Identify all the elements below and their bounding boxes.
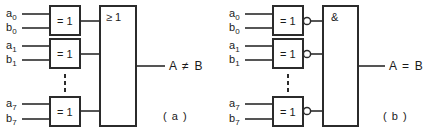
input-label-a1: a1 (6, 39, 17, 54)
input-label-b1: b1 (6, 53, 17, 68)
panel-caption-b: ( b ) (383, 110, 408, 122)
xor-gate-7-symbol: = 1 (280, 106, 296, 118)
xor-gate-7-symbol: = 1 (57, 106, 73, 118)
input-label-b0: b0 (229, 21, 240, 36)
panel-caption-a: ( a ) (163, 110, 188, 122)
input-label-a0: a0 (6, 7, 17, 22)
and-gate-symbol: & (331, 11, 339, 23)
input-label-b7: b7 (229, 112, 240, 127)
input-label-b7: b7 (6, 112, 17, 127)
input-label-a0: a0 (229, 7, 240, 22)
xor-gate-1-symbol: = 1 (57, 48, 73, 60)
input-label-a7: a7 (6, 97, 17, 112)
output-label-a-neq-b: A ≠ B (169, 59, 204, 73)
input-label-b1: b1 (229, 53, 240, 68)
or-gate-symbol: ≥ 1 (106, 11, 121, 23)
output-label-a-eq-b: A = B (389, 59, 424, 73)
input-label-a1: a1 (229, 39, 240, 54)
xor-gate-0-symbol: = 1 (280, 15, 296, 27)
xor-gate-1-symbol: = 1 (280, 48, 296, 60)
xor-gate-0-symbol: = 1 (57, 15, 73, 27)
logic-circuit-figure: a0 b0 a1 b1 a7 b7 = 1 = 1 = 1 ≥ 1 A ≠ B … (0, 0, 427, 138)
input-label-a7: a7 (229, 97, 240, 112)
input-label-b0: b0 (6, 21, 17, 36)
